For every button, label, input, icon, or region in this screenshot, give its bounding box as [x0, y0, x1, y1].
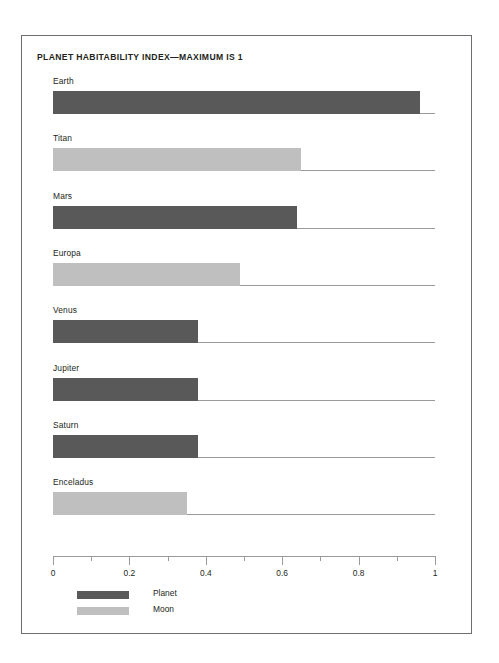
bar-track [53, 378, 435, 401]
legend-item[interactable]: Moon [53, 605, 303, 619]
bar[interactable] [53, 148, 301, 171]
bar[interactable] [53, 320, 198, 343]
legend-item[interactable]: Planet [53, 589, 303, 603]
bar-label: Earth [53, 76, 74, 86]
bar-label: Mars [53, 191, 72, 201]
x-axis-tick-label: 0.4 [200, 568, 212, 578]
x-axis-tick-label: 0.8 [353, 568, 365, 578]
x-axis-tick-label: 0 [51, 568, 56, 578]
x-axis-tick [53, 556, 54, 565]
bar-group: Jupiter [22, 363, 473, 420]
bar-group: Europa [22, 248, 473, 305]
bar[interactable] [53, 378, 198, 401]
bar-label: Europa [53, 248, 81, 258]
bar[interactable] [53, 435, 198, 458]
x-axis-tick-label: 1 [433, 568, 438, 578]
bar-track [53, 148, 435, 171]
bar-label: Titan [53, 133, 72, 143]
x-axis-minor-tick [320, 556, 321, 561]
bar-label: Saturn [53, 420, 79, 430]
x-axis-tick-label: 0.6 [276, 568, 288, 578]
bar-track [53, 91, 435, 114]
bar-group: Enceladus [22, 477, 473, 534]
chart-legend: PlanetMoon [53, 589, 303, 621]
bar-label: Venus [53, 305, 77, 315]
x-axis-tick [129, 556, 130, 565]
legend-swatch [77, 607, 129, 615]
x-axis-tick [206, 556, 207, 565]
x-axis-tick-label: 0.2 [124, 568, 136, 578]
plot-area: EarthTitanMarsEuropaVenusJupiterSaturnEn… [22, 76, 473, 561]
x-axis-minor-tick [91, 556, 92, 561]
x-axis-minor-tick [244, 556, 245, 561]
chart-frame: PLANET HABITABILITY INDEX—MAXIMUM IS 1 E… [21, 35, 472, 634]
legend-label: Moon [153, 604, 174, 614]
x-axis-minor-tick [397, 556, 398, 561]
x-axis-tick [435, 556, 436, 565]
bar-group: Saturn [22, 420, 473, 477]
x-axis-tick [282, 556, 283, 565]
bar-group: Venus [22, 305, 473, 362]
bar-track [53, 320, 435, 343]
legend-swatch [77, 591, 129, 599]
bar[interactable] [53, 492, 187, 515]
bar-group: Titan [22, 133, 473, 190]
bar-label: Enceladus [53, 477, 93, 487]
bar-track [53, 492, 435, 515]
bar-group: Earth [22, 76, 473, 133]
bar[interactable] [53, 263, 240, 286]
x-axis-tick [359, 556, 360, 565]
bar[interactable] [53, 91, 420, 114]
bar-label: Jupiter [53, 363, 79, 373]
chart-title: PLANET HABITABILITY INDEX—MAXIMUM IS 1 [37, 52, 243, 62]
bar-track [53, 206, 435, 229]
x-axis-minor-tick [168, 556, 169, 561]
bar-track [53, 435, 435, 458]
x-axis: 00.20.40.60.81 [53, 556, 435, 586]
bar[interactable] [53, 206, 297, 229]
bar-track [53, 263, 435, 286]
legend-label: Planet [153, 588, 177, 598]
bar-group: Mars [22, 191, 473, 248]
